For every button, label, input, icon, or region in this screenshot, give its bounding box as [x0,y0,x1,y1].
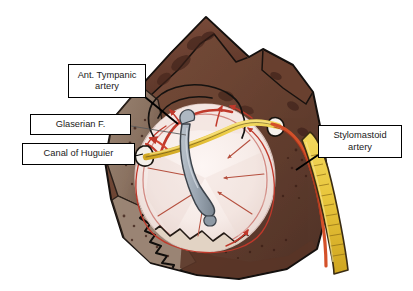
label-ant-tympanic-artery: Ant. Tympanic artery [68,64,146,98]
umbo [204,216,216,226]
anatomical-figure: Ant. Tympanic artery Glaserian F. Canal … [0,0,413,291]
label-stylomastoid-artery: Stylomastoid artery [318,125,402,158]
label-canal-of-huguier: Canal of Huguier [22,143,135,165]
label-glaserian-fissure: Glaserian F. [30,114,131,135]
